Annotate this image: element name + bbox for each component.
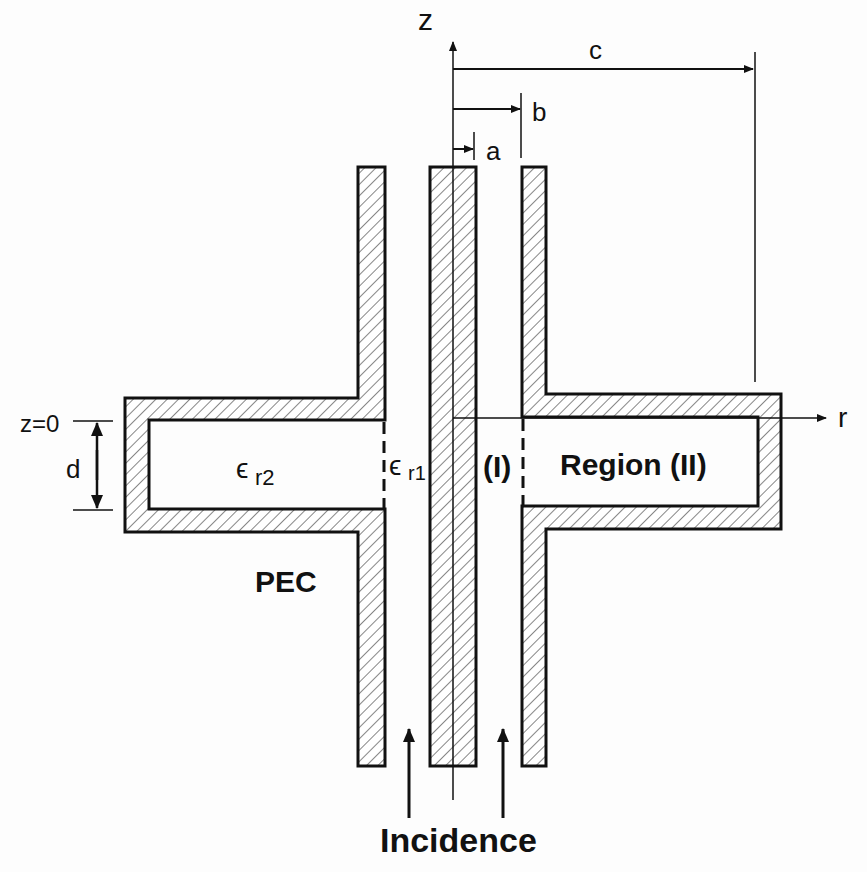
diagram-canvas: z r c b a z=0 d ϵ r2 ϵ r1 (I) Region (II… (0, 0, 867, 872)
dimension-c-label: c (589, 35, 602, 65)
incidence-label: Incidence (380, 821, 537, 859)
dimension-a-label: a (486, 136, 501, 166)
pec-label: PEC (255, 565, 317, 598)
region-1-label: (I) (483, 450, 511, 483)
dimension-b-label: b (532, 97, 546, 127)
region-2-label: Region (II) (560, 448, 707, 481)
eps-r1-subscript: r1 (408, 462, 426, 484)
eps-r2-symbol: ϵ (236, 453, 248, 484)
z0-label: z=0 (20, 410, 59, 437)
r-axis-label: r (838, 402, 847, 433)
eps-r2-subscript: r2 (255, 465, 275, 490)
z-axis-label: z (418, 3, 433, 36)
dimension-d-label: d (66, 454, 80, 484)
eps-r1-symbol: ϵ (389, 450, 401, 481)
coax-cavity-diagram: z r c b a z=0 d ϵ r2 ϵ r1 (I) Region (II… (0, 0, 867, 872)
